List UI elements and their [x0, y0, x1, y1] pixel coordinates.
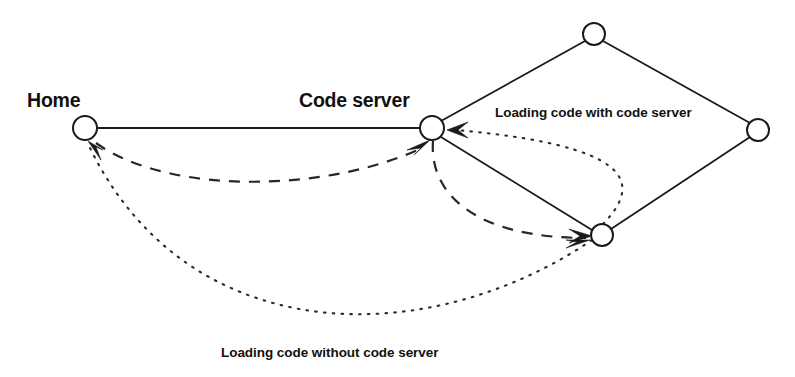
- dotted-edge-group: [90, 130, 622, 314]
- label-code-server: Code server: [299, 89, 410, 112]
- diagram-canvas: [0, 0, 795, 377]
- label-loading-with-code-server: Loading code with code server: [495, 105, 692, 120]
- node-top[interactable]: [583, 23, 605, 45]
- edge-right-to-bottom: [611, 137, 750, 229]
- dashed-edge-group: [96, 141, 586, 238]
- node-home[interactable]: [73, 116, 97, 140]
- label-loading-without-code-server: Loading code without code server: [221, 345, 438, 360]
- node-bottom[interactable]: [591, 224, 613, 246]
- label-home: Home: [27, 89, 80, 112]
- node-group: [73, 23, 769, 246]
- edge-bottom-to-code-server-dotted: [456, 130, 622, 224]
- edge-bottom-to-home-dotted: [90, 148, 592, 314]
- edge-code-server-to-bottom: [441, 137, 592, 230]
- node-code-server[interactable]: [420, 116, 444, 140]
- arrowhead-into-bottom-node-secondary: [566, 240, 590, 248]
- arrowhead-into-code-server-dotted: [447, 122, 468, 138]
- edge-code-server-to-bottom-dashed: [433, 141, 586, 238]
- node-right[interactable]: [747, 119, 769, 141]
- edge-home-to-code-server-dashed: [96, 143, 424, 182]
- arrowhead-group: [88, 122, 592, 248]
- network-diagram: Home Code server Loading code with code …: [0, 0, 795, 377]
